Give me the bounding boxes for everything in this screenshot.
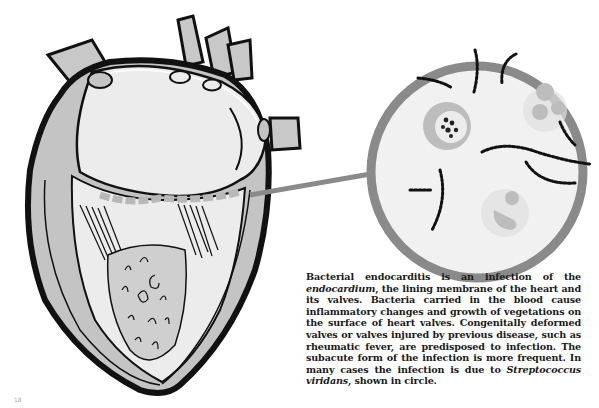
caption-part1: Bacterial endocarditis is an infection o… [306, 271, 581, 282]
caption-text: Bacterial endocarditis is an infection o… [306, 271, 581, 387]
magnified-circle [371, 50, 590, 278]
heart-drawing [28, 16, 300, 393]
caption-part3: , shown in circle. [348, 375, 437, 386]
caption-part2: , the lining membrane of the heart and i… [306, 283, 581, 375]
term-endocardium: endocardium [306, 283, 375, 294]
page-mark: 18 [14, 396, 22, 403]
